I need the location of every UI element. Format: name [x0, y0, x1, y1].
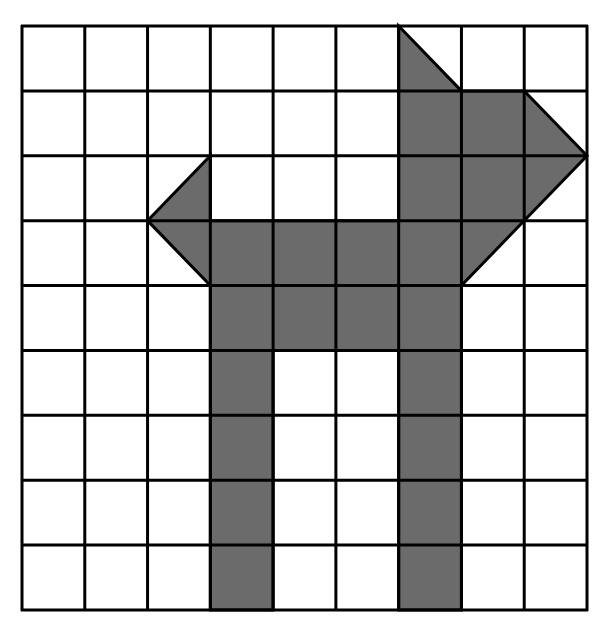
grid-diagram: [0, 0, 608, 626]
